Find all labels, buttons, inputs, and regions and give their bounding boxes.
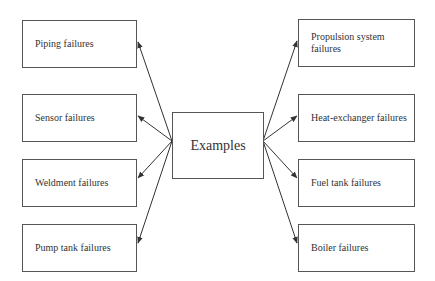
node-examples: Examples [172,112,264,179]
arrow-to-pump-tank [138,141,172,243]
node-piping-failures: Piping failures [22,20,137,68]
arrow-to-boiler [263,141,297,243]
arrow-to-piping [138,42,172,141]
node-heat-exchanger-failures: Heat-exchanger failures [298,94,415,142]
arrow-to-fuel-tank [263,141,297,178]
node-fuel-tank-failures: Fuel tank failures [298,159,415,207]
node-label: Heat-exchanger failures [311,112,407,124]
arrow-to-weldment [138,141,172,178]
node-weldment-failures: Weldment failures [22,159,137,207]
arrow-to-propulsion [263,41,297,141]
node-label: Pump tank failures [35,242,111,254]
node-label: Weldment failures [35,177,108,189]
arrow-to-sensor [138,116,172,141]
center-label: Examples [173,138,263,154]
node-pump-tank-failures: Pump tank failures [22,224,137,272]
node-label: Sensor failures [35,112,95,124]
node-label: Boiler failures [311,242,368,254]
arrow-to-heat-exchanger [263,116,297,141]
node-propulsion-system-failures: Propulsion system failures [298,19,415,67]
node-label: Fuel tank failures [311,177,381,189]
node-label: Propulsion system failures [311,31,401,55]
node-boiler-failures: Boiler failures [298,224,415,272]
node-sensor-failures: Sensor failures [22,94,137,142]
node-label: Piping failures [35,38,94,50]
